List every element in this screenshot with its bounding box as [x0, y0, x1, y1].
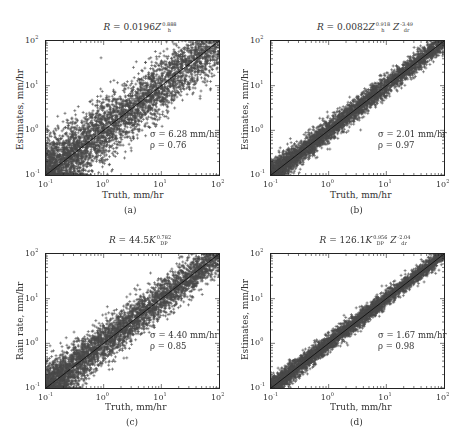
panel-caption: (c) [126, 417, 138, 427]
x-tick-label: 102 [436, 178, 449, 189]
y-tick-label: 102 [25, 34, 38, 45]
panel-caption: (a) [124, 205, 136, 215]
y-tick-label: 100 [25, 336, 38, 347]
x-tick-label: 101 [378, 178, 391, 189]
plot-area [45, 40, 220, 176]
y-tick-label: 101 [250, 292, 263, 303]
panel-title: R = 0.0082Z0.918h Z-3.49dr [280, 21, 450, 33]
x-tick-label: 101 [153, 391, 166, 402]
rho-annotation: ρ = 0.76 [150, 140, 186, 150]
y-tick-label: 102 [250, 247, 263, 258]
x-tick-label: 101 [153, 178, 166, 189]
y-tick-label: 100 [25, 123, 38, 134]
x-tick-label: 100 [96, 178, 109, 189]
sigma-annotation: σ = 4.40 mm/hr [150, 330, 218, 340]
y-axis-label: Estimates, mm/hr [240, 69, 250, 150]
sigma-annotation: σ = 1.67 mm/hr [378, 330, 446, 340]
y-tick-label: 100 [250, 123, 263, 134]
x-tick-label: 102 [211, 178, 224, 189]
sigma-annotation: σ = 2.01 mm/hr [378, 129, 446, 139]
y-tick-label: 101 [25, 292, 38, 303]
scatter-plot [271, 41, 444, 175]
x-tick-label: 102 [211, 391, 224, 402]
panel-title: R = 126.1K0.956DP Z-2.04dr [280, 234, 450, 246]
x-tick-label: 100 [321, 391, 334, 402]
x-tick-label: 10-1 [263, 178, 278, 189]
y-tick-label: 102 [250, 34, 263, 45]
plot-area [45, 253, 220, 389]
scatter-plot [46, 41, 219, 175]
rho-annotation: ρ = 0.98 [378, 341, 414, 351]
x-tick-label: 102 [436, 391, 449, 402]
scatter-plot [46, 254, 219, 388]
rho-annotation: ρ = 0.85 [150, 341, 186, 351]
y-tick-label: 100 [250, 336, 263, 347]
y-axis-label: Estimates, mm/hr [15, 69, 25, 150]
x-tick-label: 10-1 [38, 391, 53, 402]
panel-title: R = 0.0196Z0.888h [60, 21, 220, 33]
x-axis-label: Truth, mm/hr [330, 190, 391, 200]
panel-caption: (b) [350, 205, 363, 215]
x-tick-label: 101 [378, 391, 391, 402]
plot-area [270, 40, 445, 176]
x-tick-label: 10-1 [38, 178, 53, 189]
rho-annotation: ρ = 0.97 [378, 140, 414, 150]
panel-caption: (d) [350, 417, 363, 427]
panel-title: R = 44.5K0.782DP [60, 234, 220, 246]
x-tick-label: 100 [321, 178, 334, 189]
scatter-plot [271, 254, 444, 388]
sigma-annotation: σ = 6.28 mm/hr [150, 129, 218, 139]
x-axis-label: Truth, mm/hr [105, 402, 166, 412]
y-axis-label: Estimates, mm/hr [240, 279, 250, 360]
y-tick-label: 101 [25, 79, 38, 90]
y-axis-label: Rain rate, mm/hr [15, 282, 25, 360]
x-axis-label: Truth, mm/hr [330, 402, 391, 412]
x-tick-label: 10-1 [263, 391, 278, 402]
y-tick-label: 101 [250, 79, 263, 90]
x-axis-label: Truth, mm/hr [102, 190, 163, 200]
plot-area [270, 253, 445, 389]
y-tick-label: 102 [25, 247, 38, 258]
x-tick-label: 100 [96, 391, 109, 402]
